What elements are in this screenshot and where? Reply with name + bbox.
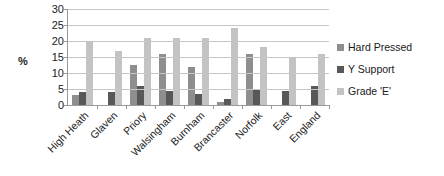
x-tick-label: Norfolk (232, 109, 264, 141)
plot-area (67, 9, 329, 106)
chart-legend: Hard PressedY SupportGrade 'E' (337, 36, 442, 102)
bar (144, 38, 151, 105)
bar (108, 92, 115, 105)
x-axis-tick-labels: High HeathGlavenPrioryWalsinghamBurnhamB… (67, 107, 328, 175)
y-tick-mark (64, 9, 68, 10)
legend-swatch-icon (337, 66, 344, 73)
bar (318, 54, 325, 105)
bar (231, 28, 238, 105)
bar (79, 92, 86, 105)
bar (115, 51, 122, 105)
bar (202, 38, 209, 105)
y-tick-label: 15 (52, 52, 64, 62)
bar (159, 54, 166, 105)
bar (130, 65, 137, 105)
y-tick-mark (64, 89, 68, 90)
gridline (68, 9, 329, 10)
legend-item[interactable]: Y Support (337, 58, 442, 80)
y-tick-mark (64, 41, 68, 42)
legend-label: Hard Pressed (348, 41, 412, 53)
bar (72, 95, 79, 105)
y-tick-mark (64, 73, 68, 74)
x-tick-label: England (286, 109, 322, 145)
bar (224, 99, 231, 105)
legend-label: Grade 'E' (348, 85, 391, 97)
legend-swatch-icon (337, 88, 344, 95)
x-tick-label: East (270, 109, 293, 132)
bar (217, 102, 224, 105)
x-tick-label: Glaven (87, 109, 119, 141)
y-tick-label: 25 (52, 20, 64, 30)
legend-item[interactable]: Hard Pressed (337, 36, 442, 58)
gridline (68, 25, 329, 26)
y-axis-tick-labels: 302520151050 (40, 9, 64, 105)
x-tick-mark (329, 105, 330, 109)
gridline (68, 89, 329, 90)
y-tick-mark (64, 57, 68, 58)
y-axis-title: % (18, 55, 28, 67)
gridline (68, 73, 329, 74)
bar (282, 91, 289, 105)
bar (195, 94, 202, 105)
bar (253, 89, 260, 105)
legend-swatch-icon (337, 44, 344, 51)
gridline (68, 41, 329, 42)
y-tick-label: 20 (52, 36, 64, 46)
y-tick-label: 30 (52, 4, 64, 14)
bar (166, 91, 173, 105)
bar (289, 57, 296, 105)
y-tick-mark (64, 25, 68, 26)
legend-item[interactable]: Grade 'E' (337, 80, 442, 102)
y-tick-label: 10 (52, 68, 64, 78)
y-tick-mark (64, 105, 68, 106)
legend-label: Y Support (348, 63, 395, 75)
gridline (68, 57, 329, 58)
bar (173, 38, 180, 105)
bar (246, 54, 253, 105)
x-tick-label: High Heath (44, 109, 90, 155)
bar-chart: % 302520151050 High HeathGlavenPrioryWal… (0, 0, 444, 176)
